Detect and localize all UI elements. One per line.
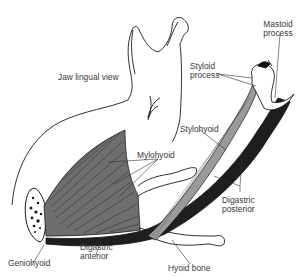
label-digastric-posterior: Digastric posterior: [222, 196, 255, 214]
label-digastric-anterior-line2: anterior: [80, 252, 113, 261]
label-geniohyoid: Geniohyoid: [8, 259, 50, 268]
label-hyoid-bone: Hyoid bone: [168, 264, 210, 273]
mandible-section: [25, 188, 46, 242]
label-mastoid-line2: process: [256, 29, 300, 38]
label-mastoid-process: Mastoid process: [256, 20, 300, 38]
label-digastric-posterior-line2: posterior: [222, 205, 255, 214]
label-styloid-line2: process: [190, 71, 219, 80]
label-jaw-lingual-view: Jaw lingual view: [58, 73, 119, 82]
label-digastric-anterior: Digastric anterior: [80, 243, 113, 261]
mastoid-region: [251, 60, 294, 110]
label-styloid-process: Styloid process: [190, 62, 219, 80]
label-stylohyoid: Stylohyoid: [180, 125, 219, 134]
label-mylohyoid: Mylohyoid: [137, 151, 175, 160]
anatomy-diagram: Jaw lingual view Mastoid process Styloid…: [0, 0, 301, 277]
mylohyoid-muscle: [44, 130, 140, 236]
diagram-drawing: [0, 0, 301, 277]
